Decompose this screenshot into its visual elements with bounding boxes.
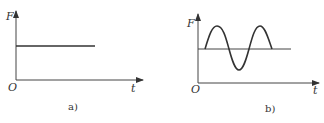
y-axis-label: F xyxy=(186,17,195,30)
x-axis-label: t xyxy=(313,84,318,97)
origin-label: O xyxy=(191,83,200,96)
oscillating-force-curve xyxy=(205,26,272,70)
y-axis-label: F xyxy=(5,10,14,23)
panel-b: F O t b) xyxy=(186,14,319,114)
force-time-diagrams: F O t a) F O t b) xyxy=(0,0,324,123)
panel-caption: b) xyxy=(265,103,275,114)
x-axis-label: t xyxy=(131,82,136,95)
origin-label: O xyxy=(8,81,17,94)
panel-a: F O t a) xyxy=(5,10,143,112)
panel-caption: a) xyxy=(68,101,78,112)
